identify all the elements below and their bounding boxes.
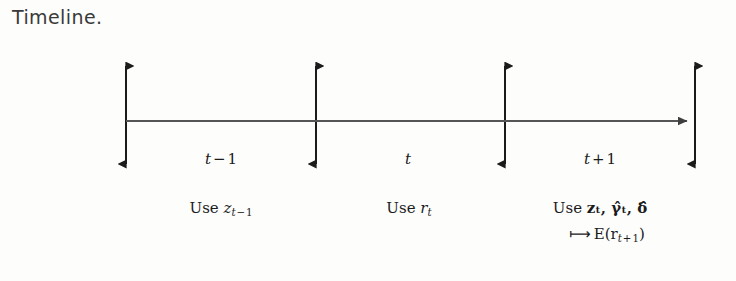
period-label-op: +: [590, 150, 607, 168]
mapsto-arrow-icon: ⟼: [569, 225, 594, 243]
annotation-prefix: Use: [386, 199, 420, 217]
annotation-subscript: t: [428, 207, 434, 218]
period-label-t-plus-1: t+1: [584, 150, 616, 168]
period-label-t-minus-1: t−1: [205, 150, 237, 168]
annotation-use-z-gamma-delta: Use 𝐳ₜ, γ̂ₜ, δ̂: [553, 199, 647, 217]
annotation-use-z-t-minus-1: Use zt−1: [189, 199, 252, 218]
annotation-prefix: Use: [553, 199, 587, 217]
annotation-use-r-t: Use rt: [386, 199, 433, 218]
period-label-op: [411, 150, 415, 168]
annotation-symbol: z: [223, 199, 231, 217]
annotation-prefix: Use: [189, 199, 223, 217]
period-label-t: t: [405, 150, 415, 168]
expectation-expression: E(r: [594, 225, 618, 243]
expectation-close-paren: ): [639, 225, 645, 243]
expectation-subscript: t+1: [618, 233, 639, 244]
annotation-terms: 𝐳ₜ, γ̂ₜ, δ̂: [587, 199, 647, 217]
period-label-num: 1: [228, 150, 238, 168]
annotation-subscript: t−1: [231, 207, 252, 218]
timeline-figure: Timeline. t−1 t t+1 Use zt−1: [0, 0, 736, 281]
annotation-mapsto-expectation: ⟼E(rt+1): [569, 225, 645, 244]
period-label-num: 1: [607, 150, 617, 168]
period-label-op: −: [211, 150, 228, 168]
